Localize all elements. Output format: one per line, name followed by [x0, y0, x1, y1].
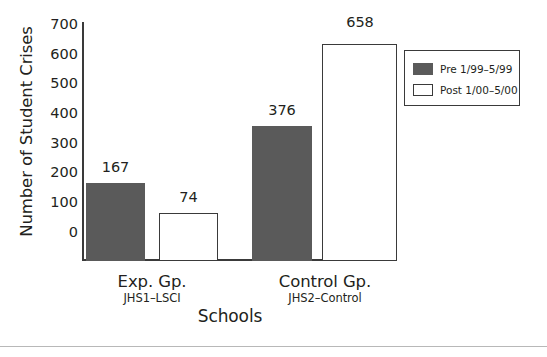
x-category-exp-gp: Exp. Gp. JHS1–LSCI [82, 272, 222, 305]
legend-swatch-hollow-icon [413, 84, 433, 96]
y-tick-500: 500 [40, 76, 78, 91]
y-axis-line [82, 22, 84, 261]
x-category-exp-gp-sublabel: JHS1–LSCI [82, 291, 222, 305]
legend-entry-pre: Pre 1/99–5/99 [413, 58, 519, 79]
legend-entry-post: Post 1/00–5/00 [413, 79, 519, 100]
y-tick-0: 0 [40, 225, 78, 240]
bar-exp-post [159, 213, 218, 261]
legend-label-post: Post 1/00–5/00 [440, 84, 518, 96]
x-category-exp-gp-label: Exp. Gp. [82, 272, 222, 291]
legend-label-pre: Pre 1/99–5/99 [440, 63, 512, 75]
x-category-control-gp: Control Gp. JHS2–Control [250, 272, 400, 305]
bar-value-exp-post: 74 [154, 190, 223, 205]
legend-swatch-filled-icon [413, 63, 433, 75]
x-category-control-gp-sublabel: JHS2–Control [250, 291, 400, 305]
bar-chart-figure: Number of Student Crises 700 600 500 400… [0, 0, 547, 357]
bar-exp-pre [86, 183, 145, 261]
x-category-control-gp-label: Control Gp. [250, 272, 400, 291]
y-axis-title-text: Number of Student Crises [17, 26, 36, 237]
y-tick-300: 300 [40, 136, 78, 151]
y-axis-tick-labels: 700 600 500 400 300 200 100 0 [38, 0, 78, 357]
bottom-divider [0, 346, 547, 347]
y-tick-200: 200 [40, 165, 78, 180]
bar-control-pre [252, 126, 312, 261]
bar-value-control-pre: 376 [247, 103, 317, 118]
bar-value-control-post: 658 [325, 15, 395, 30]
y-tick-700: 700 [40, 17, 78, 32]
y-tick-400: 400 [40, 106, 78, 121]
bar-control-post [322, 44, 397, 261]
y-tick-600: 600 [40, 47, 78, 62]
bar-value-exp-pre: 167 [81, 160, 150, 175]
chart-legend: Pre 1/99–5/99 Post 1/00–5/00 [404, 50, 520, 106]
x-axis-title: Schools [0, 306, 460, 326]
y-tick-100: 100 [40, 195, 78, 210]
